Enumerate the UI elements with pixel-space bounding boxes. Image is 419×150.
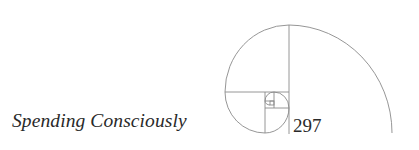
spiral-arc-bottom: [225, 92, 265, 133]
running-title: Spending Consciously: [12, 110, 187, 132]
spiral-arc-left: [225, 25, 289, 92]
spiral-center-square: [270, 101, 274, 105]
page-number: 297: [293, 115, 322, 137]
spiral-arc-tiny-bottom: [265, 101, 270, 105]
spiral-arc-tiny-left: [265, 92, 274, 101]
spiral-arc-small-right: [265, 108, 289, 133]
spiral-arc-small-top: [274, 92, 289, 108]
